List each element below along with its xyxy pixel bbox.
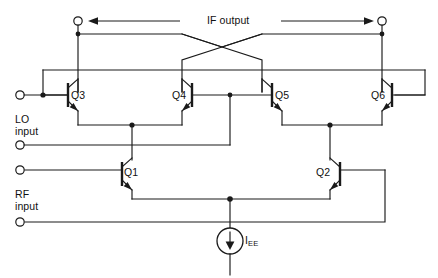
q2-label: Q2 — [316, 166, 330, 178]
q3-collector-lead — [68, 79, 78, 88]
lo-input-label: LO input — [15, 113, 38, 137]
rf-input-terminal-lower[interactable] — [16, 218, 24, 226]
if-left-node-dot — [76, 32, 81, 37]
q4-collector-lead — [182, 79, 192, 88]
cross-wire-right-to-q4 — [182, 34, 262, 92]
rf-input-label-text: RF input — [15, 188, 38, 212]
current-source-label: IEE — [245, 234, 258, 248]
if-output-left-terminal[interactable] — [74, 17, 82, 25]
q1-label: Q1 — [124, 166, 138, 178]
lo-input-terminal-lower[interactable] — [16, 141, 24, 149]
lo-input-terminal-upper[interactable] — [16, 91, 24, 99]
collector-cross-top-segments — [78, 34, 382, 47]
cross-wire-left-to-q5 — [182, 34, 262, 92]
schematic-svg — [0, 0, 438, 278]
if-output-label: IF output — [207, 14, 249, 26]
q4-label: Q4 — [172, 89, 186, 101]
q6-label: Q6 — [371, 89, 385, 101]
if-right-node-dot — [380, 32, 385, 37]
circuit-diagram-canvas: IF output LO input RF input Q3 Q4 Q5 Q6 … — [0, 0, 438, 278]
lo-input-label-text: LO input — [15, 113, 38, 137]
if-output-right-arrowhead — [364, 17, 374, 24]
lo-rail-right-drop-to-q6-base — [395, 70, 425, 95]
q5-collector-lead — [262, 79, 272, 88]
q2-collector-lead — [330, 158, 340, 167]
lo-upper-node-dot — [40, 92, 45, 97]
rf-input-label: RF input — [15, 188, 38, 212]
rf-lower-terminal-to-q2-base — [25, 170, 385, 222]
q6-collector-lead — [382, 79, 392, 88]
if-output-right-terminal[interactable] — [378, 17, 386, 25]
q5-label: Q5 — [275, 89, 289, 101]
rf-input-terminal-upper[interactable] — [16, 166, 24, 174]
current-source-subscript: EE — [248, 239, 258, 248]
if-output-left-arrowhead — [88, 17, 98, 24]
q3-label: Q3 — [71, 89, 85, 101]
